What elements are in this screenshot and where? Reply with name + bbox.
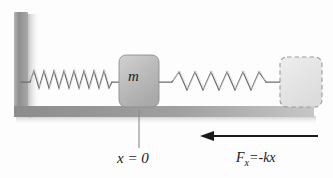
restoring-force-arrow [200,131,318,141]
force-arrow-head [200,131,214,141]
mass-block-label: m [128,68,139,85]
force-expression: =-kx [249,150,276,165]
stretched-spring-highlight [173,71,265,89]
floor-shadow [16,116,316,125]
stretched-spring [157,72,280,90]
ghost-block [280,57,322,107]
mass-block [119,55,159,107]
origin-label: x = 0 [117,151,149,166]
force-symbol: F [236,150,245,165]
spring-mass-diagram: m x = 0 Fx=-kx [0,0,333,178]
force-equation-label: Fx=-kx [236,151,276,168]
fixed-wall [14,12,28,116]
wall-shadow [28,14,40,118]
floor-surface [14,106,314,117]
diagram-canvas [0,0,333,178]
